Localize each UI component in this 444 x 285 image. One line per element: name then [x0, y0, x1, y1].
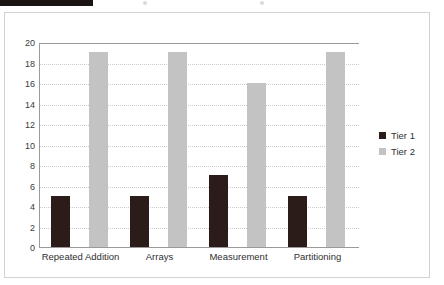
bar	[209, 175, 228, 247]
chart-container: 20181614121086420 Repeated AdditionArray…	[4, 12, 430, 278]
legend-swatch-icon	[379, 132, 386, 139]
bar	[326, 52, 345, 247]
y-axis-tick-label: 18	[25, 59, 35, 68]
y-axis-tick-label: 12	[25, 121, 35, 130]
y-axis-tick-label: 16	[25, 80, 35, 89]
y-axis-tick-label: 14	[25, 100, 35, 109]
page-speck	[260, 1, 264, 5]
bar	[51, 196, 70, 247]
y-axis-tick-label: 10	[25, 141, 35, 150]
legend-label: Tier 2	[391, 147, 415, 157]
chart-legend: Tier 1Tier 2	[379, 131, 415, 156]
bar	[89, 52, 108, 247]
legend-item: Tier 1	[379, 131, 415, 141]
legend-swatch-icon	[379, 148, 386, 155]
y-axis-tick-label: 20	[25, 39, 35, 48]
bar-group: Partitioning	[278, 43, 357, 247]
bar-group: Arrays	[120, 43, 199, 247]
bar	[288, 196, 307, 247]
x-axis-tick-label: Repeated Addition	[41, 252, 120, 262]
bar-group: Repeated Addition	[41, 43, 120, 247]
y-axis-tick-label: 6	[30, 182, 35, 191]
x-axis-tick-label: Measurement	[199, 252, 278, 262]
redaction-bar	[0, 0, 93, 6]
x-axis-tick-label: Arrays	[120, 252, 199, 262]
bar-groups: Repeated AdditionArraysMeasurementPartit…	[41, 43, 359, 247]
x-axis-tick-label: Partitioning	[278, 252, 357, 262]
y-axis-tick-label: 4	[30, 203, 35, 212]
bar	[168, 52, 187, 247]
legend-item: Tier 2	[379, 147, 415, 157]
page-speck	[143, 1, 147, 5]
bar	[247, 83, 266, 247]
bar-group: Measurement	[199, 43, 278, 247]
legend-label: Tier 1	[391, 131, 415, 141]
plot-area: 20181614121086420 Repeated AdditionArray…	[39, 43, 359, 248]
y-axis-tick-label: 2	[30, 223, 35, 232]
bar	[130, 196, 149, 247]
y-axis-tick-label: 8	[30, 162, 35, 171]
y-axis-tick-label: 0	[30, 244, 35, 253]
